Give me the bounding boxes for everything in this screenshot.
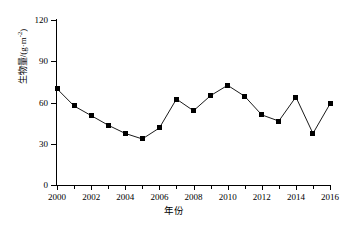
data-point-marker <box>276 119 281 124</box>
x-tick-mark <box>262 186 263 190</box>
data-point-marker <box>174 97 179 102</box>
x-tick-mark <box>330 186 331 190</box>
y-tick-mark <box>51 144 56 145</box>
x-tick-mark-minor <box>245 186 246 189</box>
x-tick-mark <box>57 186 58 190</box>
x-axis-title: 年份 <box>0 206 348 217</box>
x-tick-mark-minor <box>74 186 75 189</box>
x-tick-mark <box>194 186 195 190</box>
data-point-marker <box>293 95 298 100</box>
x-tick-mark-minor <box>176 186 177 189</box>
x-tick-label: 2016 <box>310 192 348 202</box>
data-point-marker <box>157 125 162 130</box>
data-point-marker <box>225 83 230 88</box>
data-point-marker <box>140 136 145 141</box>
y-tick-mark <box>51 103 56 104</box>
x-tick-mark <box>125 186 126 190</box>
data-point-marker <box>89 113 94 118</box>
y-tick-mark <box>51 185 56 186</box>
data-point-marker <box>191 108 196 113</box>
data-point-marker <box>72 103 77 108</box>
y-tick-mark <box>51 61 56 62</box>
y-tick-label: 60 <box>10 99 48 108</box>
y-tick-mark <box>51 20 56 21</box>
data-point-marker <box>123 131 128 136</box>
x-tick-mark-minor <box>211 186 212 189</box>
y-tick-label: 30 <box>10 140 48 149</box>
data-point-marker <box>106 123 111 128</box>
y-axis-line <box>56 19 57 186</box>
y-axis-title-exponent: -2 <box>16 32 23 37</box>
data-point-marker <box>208 93 213 98</box>
data-point-marker <box>259 112 264 117</box>
data-point-marker <box>242 94 247 99</box>
x-tick-mark-minor <box>279 186 280 189</box>
data-point-marker <box>310 131 315 136</box>
x-tick-mark <box>159 186 160 190</box>
y-tick-label: 120 <box>10 16 48 25</box>
x-tick-mark <box>228 186 229 190</box>
y-tick-label: 0 <box>10 181 48 190</box>
y-axis-title-tail: ) <box>18 29 28 32</box>
x-tick-mark-minor <box>108 186 109 189</box>
x-tick-mark <box>91 186 92 190</box>
y-tick-label: 90 <box>10 57 48 66</box>
biomass-year-line-chart: 生物量/(g·m-2) 0306090120 20002002200420062… <box>0 0 348 228</box>
x-tick-mark-minor <box>313 186 314 189</box>
x-tick-mark-minor <box>142 186 143 189</box>
data-point-marker <box>55 86 60 91</box>
x-tick-mark <box>296 186 297 190</box>
data-point-marker <box>328 101 333 106</box>
